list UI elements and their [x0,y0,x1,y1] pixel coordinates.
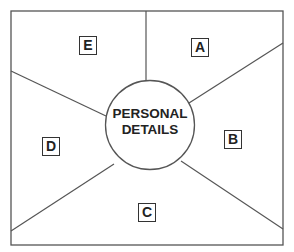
segment-label-c: C [138,203,156,222]
divider-upper-left [11,71,106,116]
center-label-line1: PERSONAL [106,106,194,122]
segment-label-b: B [224,130,242,149]
divider-lower-left [11,164,114,231]
segment-label-e: E [79,36,97,55]
segment-label-d: D [42,137,60,156]
segment-label-a: A [191,38,209,57]
center-label-line2: DETAILS [106,122,194,138]
divider-lower-right [181,161,283,229]
center-label: PERSONAL DETAILS [106,106,194,138]
